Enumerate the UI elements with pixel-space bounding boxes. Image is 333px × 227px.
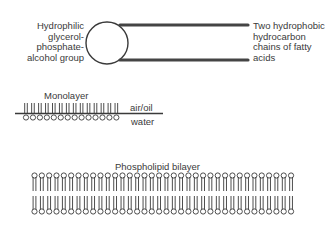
bilayer-lipid-pair	[120, 173, 125, 214]
monolayer-lipid	[30, 103, 35, 120]
bilayer-lipid-pair	[157, 173, 162, 214]
bilayer-lipid-pair	[54, 173, 59, 214]
bilayer-lipid-pair	[244, 173, 249, 214]
bilayer-lipid-pair	[193, 173, 198, 214]
bilayer-lipid-pair	[83, 173, 88, 214]
monolayer-lipid	[58, 103, 63, 120]
bilayer-lipid-pair	[47, 173, 52, 214]
bilayer-lipid-pair	[91, 173, 96, 214]
bilayer-lipid-pair	[186, 173, 191, 214]
bilayer-lipid-pair	[179, 173, 184, 214]
bilayer-lipid-pair	[288, 173, 293, 214]
monolayer-lipid	[37, 103, 42, 120]
bilayer-lipid-pair	[105, 173, 110, 214]
head-group-label: Hydrophilic glycerol- phosphate- alcohol…	[8, 21, 84, 63]
phospholipid-molecule	[86, 22, 248, 64]
monolayer-lipid	[79, 103, 84, 120]
bilayer-lipid-pair	[164, 173, 169, 214]
bilayer-graphic	[32, 173, 294, 214]
monolayer-lipid	[72, 103, 77, 120]
monolayer-lipid	[86, 103, 91, 120]
monolayer-title: Monolayer	[44, 91, 88, 102]
monolayer-lipid	[23, 103, 28, 120]
bilayer-lipid-pair	[32, 173, 37, 214]
bilayer-lipid-pair	[281, 173, 286, 214]
bilayer-title: Phospholipid bilayer	[115, 162, 200, 173]
bilayer-lipid-pair	[237, 173, 242, 214]
bilayer-lipid-pair	[200, 173, 205, 214]
bilayer-lipid-pair	[127, 173, 132, 214]
monolayer-lipid	[93, 103, 98, 120]
air-oil-label: air/oil	[130, 103, 153, 114]
water-label: water	[131, 117, 154, 128]
hydrophilic-head-icon	[86, 22, 128, 64]
bilayer-lipid-pair	[113, 173, 118, 214]
monolayer-lipid	[51, 103, 56, 120]
bilayer-lipid-pair	[230, 173, 235, 214]
bilayer-lipid-pair	[208, 173, 213, 214]
bilayer-lipid-pair	[274, 173, 279, 214]
monolayer-lipid	[44, 103, 49, 120]
bilayer-lipid-pair	[252, 173, 257, 214]
bilayer-lipid-pair	[39, 173, 44, 214]
bilayer-lipid-pair	[76, 173, 81, 214]
monolayer-lipid	[65, 103, 70, 120]
monolayer-lipid	[107, 103, 112, 120]
phospholipid-diagram: Hydrophilic glycerol- phosphate- alcohol…	[0, 0, 333, 227]
bilayer-lipid-pair	[142, 173, 147, 214]
bilayer-lipid-pair	[259, 173, 264, 214]
bilayer-lipid-pair	[69, 173, 74, 214]
bilayer-lipid-pair	[135, 173, 140, 214]
bilayer-lipid-pair	[266, 173, 271, 214]
tail-chains-label: Two hydrophobic hydrocarbon chains of fa…	[253, 21, 325, 63]
bilayer-lipid-pair	[61, 173, 66, 214]
bilayer-lipid-pair	[98, 173, 103, 214]
monolayer-lipid	[114, 103, 119, 120]
bilayer-lipid-pair	[149, 173, 154, 214]
bilayer-lipid-pair	[222, 173, 227, 214]
monolayer-lipid	[100, 103, 105, 120]
bilayer-lipid-pair	[215, 173, 220, 214]
bilayer-lipid-pair	[171, 173, 176, 214]
